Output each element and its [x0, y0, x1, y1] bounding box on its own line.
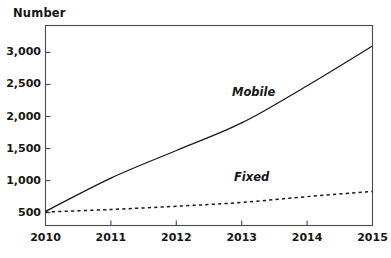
x-tick-label: 2013 — [226, 232, 257, 243]
series-label-mobile: Mobile — [232, 87, 275, 99]
y-tick-label: 1,000 — [6, 175, 41, 186]
x-tick-label: 2012 — [161, 232, 192, 243]
y-tick-label: 500 — [18, 207, 41, 218]
y-tick-label: 3,000 — [6, 46, 41, 57]
x-tick-label: 2011 — [96, 232, 127, 243]
x-tick-label: 2015 — [357, 232, 388, 243]
x-tick-label: 2014 — [292, 232, 323, 243]
y-tick-label: 1,500 — [6, 143, 41, 154]
plot-canvas — [0, 0, 391, 258]
x-tick-label: 2010 — [30, 232, 61, 243]
series-label-fixed: Fixed — [234, 172, 269, 184]
line-chart: Number 5001,0001,5002,0002,5003,000 2010… — [0, 0, 391, 258]
y-tick-label: 2,500 — [6, 78, 41, 89]
y-tick-label: 2,000 — [6, 111, 41, 122]
axes — [46, 26, 373, 226]
